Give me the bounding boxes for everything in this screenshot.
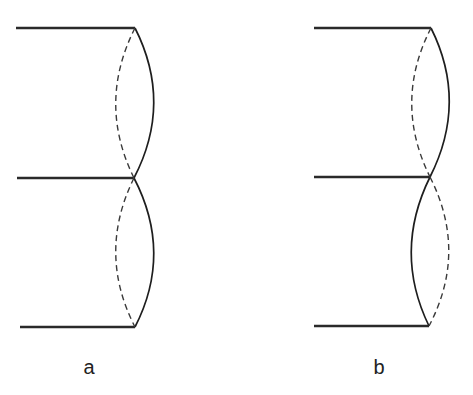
panel-b-upper-dashed-arc bbox=[412, 28, 431, 177]
panel-a: a bbox=[16, 28, 154, 378]
panel-b-label: b bbox=[373, 356, 384, 378]
panel-a-upper-solid-arc bbox=[134, 28, 154, 178]
panel-b: b bbox=[314, 28, 449, 378]
panel-b-lower-dashed-arc bbox=[429, 177, 449, 326]
figure-canvas: a b bbox=[0, 0, 473, 395]
panel-a-lower-dashed-arc bbox=[116, 178, 135, 327]
panel-a-lower-solid-arc bbox=[134, 178, 154, 327]
panel-a-upper-dashed-arc bbox=[116, 28, 135, 178]
panel-a-label: a bbox=[83, 356, 95, 378]
panel-b-upper-solid-arc bbox=[430, 28, 449, 177]
panel-b-lower-solid-arc bbox=[411, 177, 430, 326]
